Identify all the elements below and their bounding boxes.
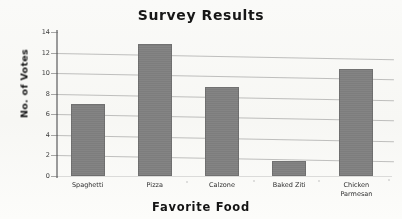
y-tick-label: 12	[28, 49, 50, 57]
y-tick-label: 10	[28, 69, 50, 77]
bar	[205, 87, 239, 176]
y-tick-mark	[51, 135, 58, 136]
x-tick-label: Baked Ziti	[259, 181, 319, 190]
bar	[138, 44, 172, 176]
y-tick-mark	[51, 114, 58, 115]
x-axis-title: Favorite Food	[0, 200, 402, 214]
scan-speck	[318, 180, 320, 182]
y-tick-mark	[51, 73, 58, 74]
chart-page: Survey Results No. of Votes Favorite Foo…	[0, 0, 402, 219]
bar	[272, 161, 306, 176]
scan-speck	[388, 179, 390, 181]
x-tick-label: Spaghetti	[58, 181, 118, 190]
y-tick-label: 6	[28, 110, 50, 118]
x-axis-line	[56, 176, 392, 177]
scan-speck	[253, 180, 255, 182]
x-tick-label: Calzone	[192, 181, 252, 190]
chart-title: Survey Results	[0, 7, 402, 23]
scan-speck	[186, 181, 188, 183]
y-tick-mark	[51, 176, 58, 177]
y-tick-mark	[51, 53, 58, 54]
plot-area: 02468101214	[56, 32, 392, 176]
y-tick-label: 2	[28, 151, 50, 159]
y-tick-label: 4	[28, 131, 50, 139]
y-tick-mark	[51, 32, 58, 33]
bar	[339, 69, 373, 176]
y-tick-mark	[51, 94, 58, 95]
y-tick-label: 14	[28, 28, 50, 36]
x-tick-label: Chicken Parmesan	[326, 181, 386, 198]
y-tick-label: 8	[28, 90, 50, 98]
y-tick-mark	[51, 155, 58, 156]
gridline	[56, 53, 394, 60]
bar	[71, 104, 105, 176]
x-tick-label: Pizza	[125, 181, 185, 190]
y-tick-label: 0	[28, 172, 50, 180]
